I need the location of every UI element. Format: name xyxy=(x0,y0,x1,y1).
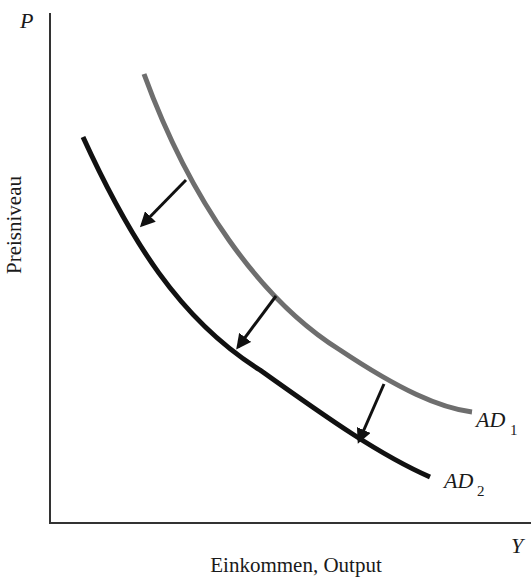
ad-shift-diagram: P Y Preisniveau Einkommen, Output AD 1 A… xyxy=(0,0,531,580)
y-axis-label: Preisniveau xyxy=(2,176,26,274)
ad1-curve xyxy=(144,74,472,412)
ad1-label-main: AD xyxy=(474,407,505,432)
ad2-curve xyxy=(83,137,430,477)
ad2-label-main: AD xyxy=(442,468,473,493)
x-axis-label: Einkommen, Output xyxy=(210,553,382,577)
ad2-label: AD 2 xyxy=(442,468,485,499)
ad1-label-subscript: 1 xyxy=(510,422,518,438)
ad2-label-subscript: 2 xyxy=(477,483,485,499)
shift-arrow-2 xyxy=(238,296,276,347)
shift-arrow-3 xyxy=(359,384,384,441)
shift-arrow-1 xyxy=(142,180,186,225)
ad1-label: AD 1 xyxy=(474,407,518,438)
x-axis-symbol: Y xyxy=(511,533,526,558)
y-axis-symbol: P xyxy=(19,8,33,33)
